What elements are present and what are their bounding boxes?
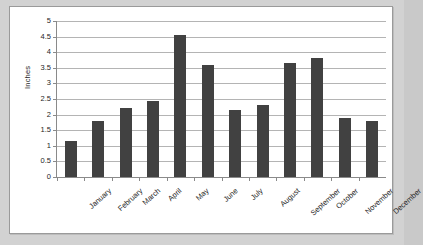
x-tick-label: November <box>364 187 395 216</box>
bar-slot <box>249 21 276 177</box>
bar-slot <box>359 21 386 177</box>
y-tick-label: 4.5 <box>41 33 51 41</box>
bar-slot <box>84 21 111 177</box>
bar[interactable] <box>92 121 104 177</box>
x-tick-label: December <box>392 187 423 216</box>
y-axis-title: Inches <box>23 66 32 89</box>
bar-slot <box>139 21 166 177</box>
y-tick-label: 3.5 <box>41 64 51 72</box>
x-axis-labels: JanuaryFebruaryMarchAprilMayJuneJulyAugu… <box>57 181 386 231</box>
bar-slot <box>331 21 358 177</box>
x-tick-label: January <box>88 187 113 210</box>
x-tick-label: May <box>194 187 210 202</box>
bar[interactable] <box>65 141 77 177</box>
y-tick-label: 5 <box>47 17 51 25</box>
y-tick-label: 0.5 <box>41 158 51 166</box>
x-tick-label: July <box>249 187 264 202</box>
x-tick-label: March <box>141 187 162 207</box>
bar[interactable] <box>174 35 186 177</box>
bar[interactable] <box>229 110 241 177</box>
bar[interactable] <box>311 58 323 177</box>
bar-slot <box>194 21 221 177</box>
plot-area: 54.543.532.521.510.50 <box>57 21 386 177</box>
bar-slot <box>276 21 303 177</box>
bar-slot <box>222 21 249 177</box>
bar[interactable] <box>120 108 132 177</box>
bar[interactable] <box>366 121 378 177</box>
x-tick-label: June <box>222 187 239 203</box>
bar-slot <box>304 21 331 177</box>
chart-frame: Inches 54.543.532.521.510.50 JanuaryFebr… <box>9 6 393 234</box>
y-tick-label: 0 <box>47 173 51 181</box>
bar-slot <box>112 21 139 177</box>
x-tick-label: August <box>279 187 301 208</box>
bar[interactable] <box>202 65 214 177</box>
y-tick-label: 1.5 <box>41 126 51 134</box>
y-tick-label: 1 <box>47 142 51 150</box>
y-tick-label: 3 <box>47 80 51 88</box>
bar-slot <box>57 21 84 177</box>
y-tick-label: 4 <box>47 48 51 56</box>
bar[interactable] <box>257 105 269 177</box>
y-tick-label: 2 <box>47 111 51 119</box>
y-tick-label: 2.5 <box>41 95 51 103</box>
bar[interactable] <box>147 101 159 177</box>
bar[interactable] <box>339 118 351 177</box>
bar[interactable] <box>284 63 296 177</box>
x-tick-label: April <box>167 187 183 203</box>
bar-slot <box>167 21 194 177</box>
